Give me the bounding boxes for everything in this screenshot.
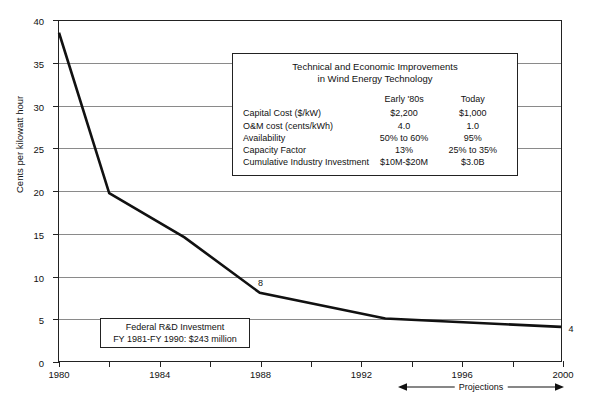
capacity-factor-early: 13% [370,145,439,157]
metric-capacity-factor: Capacity Factor [243,145,370,157]
y-tick-label-25: 25 [33,144,44,155]
x-tick-2000 [563,361,564,367]
chart-page: Cents per kilowatt hour 40 35 30 25 20 1… [0,0,591,411]
table-row: Availability 50% to 60% 95% [243,132,507,144]
x-tick-label-1992: 1992 [351,369,372,380]
table-row: Capacity Factor 13% 25% to 35% [243,145,507,157]
federal-rd-note-line1: Federal R&D Investment [126,321,225,333]
y-tick-label-5: 5 [39,315,44,326]
column-header-today: Today [438,94,507,108]
capacity-factor-today: 25% to 35% [438,145,507,157]
table-header-row: Early '80s Today [243,94,507,108]
x-tick-1990 [311,361,312,367]
x-tick-label-1988: 1988 [250,369,271,380]
federal-rd-note-box: Federal R&D Investment FY 1981-FY 1990: … [100,318,250,348]
om-cost-today: 1.0 [438,120,507,132]
inset-title-line2: in Wind Energy Technology [243,73,507,85]
y-tick-label-30: 30 [33,101,44,112]
y-tick-label-15: 15 [33,229,44,240]
y-tick-label-10: 10 [33,272,44,283]
y-tick-label-0: 0 [39,358,44,369]
om-cost-early: 4.0 [370,120,439,132]
cumulative-investment-today: $3.0B [438,157,507,169]
y-tick-label-35: 35 [33,58,44,69]
x-tick-1994 [412,361,413,367]
projections-label: Projections [455,382,508,392]
x-tick-1980 [59,361,60,367]
table-row: O&M cost (cents/kWh) 4.0 1.0 [243,120,507,132]
improvements-table: Early '80s Today Capital Cost ($/kW) $2,… [243,94,507,169]
column-header-metric [243,94,370,108]
inset-title-line1: Technical and Economic Improvements [243,61,507,73]
improvements-inset-box: Technical and Economic Improvements in W… [232,53,518,176]
cumulative-investment-early: $10M-$20M [370,157,439,169]
table-row: Capital Cost ($/kW) $2,200 $1,000 [243,108,507,120]
y-tick-label-20: 20 [33,187,44,198]
metric-capital-cost: Capital Cost ($/kW) [243,108,370,120]
table-row: Cumulative Industry Investment $10M-$20M… [243,157,507,169]
x-tick-label-1980: 1980 [48,369,69,380]
point-label-1988: 8 [258,278,263,288]
projections-annotation: Projections [398,379,564,395]
x-tick-1986 [210,361,211,367]
availability-early: 50% to 60% [370,132,439,144]
availability-today: 95% [438,132,507,144]
capital-cost-early: $2,200 [370,108,439,120]
point-label-2000: 4 [568,324,573,334]
metric-om-cost: O&M cost (cents/kWh) [243,120,370,132]
column-header-early80s: Early '80s [370,94,439,108]
x-tick-label-1984: 1984 [149,369,170,380]
x-tick-1996 [462,361,463,367]
x-tick-1998 [513,361,514,367]
x-tick-1982 [109,361,110,367]
metric-availability: Availability [243,132,370,144]
x-tick-1984 [160,361,161,367]
federal-rd-note-line2: FY 1981-FY 1990: $243 million [113,333,237,345]
x-tick-1992 [361,361,362,367]
y-axis-title: Cents per kilowatt hour [14,96,25,193]
metric-cumulative-investment: Cumulative Industry Investment [243,157,370,169]
inset-title: Technical and Economic Improvements in W… [243,61,507,85]
capital-cost-today: $1,000 [438,108,507,120]
x-tick-1988 [261,361,262,367]
y-tick-label-40: 40 [33,16,44,27]
